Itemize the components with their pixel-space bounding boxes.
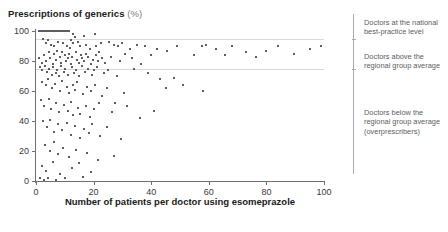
data-point xyxy=(61,80,63,82)
data-point xyxy=(83,60,85,62)
data-point xyxy=(85,53,87,55)
data-point xyxy=(69,47,71,49)
data-point xyxy=(73,72,75,74)
data-point xyxy=(90,90,92,92)
data-point xyxy=(43,179,45,181)
data-point xyxy=(277,45,279,47)
data-point xyxy=(74,125,76,127)
data-point xyxy=(101,95,103,97)
data-point xyxy=(53,53,55,55)
data-point xyxy=(93,69,95,71)
data-point xyxy=(74,89,76,91)
data-point xyxy=(46,71,48,73)
data-point xyxy=(54,83,56,85)
data-point xyxy=(62,147,64,149)
data-point xyxy=(111,111,113,113)
data-point xyxy=(83,35,85,37)
data-point xyxy=(136,44,138,46)
data-point xyxy=(57,41,59,43)
data-point xyxy=(320,45,322,47)
data-point xyxy=(71,56,73,58)
data-point xyxy=(41,62,43,64)
data-point xyxy=(48,68,50,70)
data-point xyxy=(43,54,45,56)
x-axis-line xyxy=(35,181,324,182)
data-point xyxy=(41,69,43,71)
data-point xyxy=(78,162,80,164)
data-point xyxy=(129,48,131,50)
annotation-below-average: Doctors below the regional group average… xyxy=(364,108,446,136)
data-point xyxy=(63,104,65,106)
data-point xyxy=(42,120,44,122)
data-point xyxy=(57,153,59,155)
data-point xyxy=(77,107,79,109)
data-point xyxy=(70,134,72,136)
data-point xyxy=(293,53,295,55)
data-point xyxy=(156,48,158,50)
data-point xyxy=(94,84,96,86)
reference-line xyxy=(36,39,324,40)
data-point xyxy=(309,48,311,50)
data-point xyxy=(107,69,109,71)
data-point xyxy=(43,105,45,107)
data-point xyxy=(49,57,51,59)
chart-title-main: Prescriptions of generics xyxy=(8,8,125,19)
data-point xyxy=(82,176,84,178)
data-point xyxy=(59,173,61,175)
x-tick xyxy=(36,181,37,185)
data-point xyxy=(121,42,123,44)
data-point xyxy=(55,72,57,74)
x-tick xyxy=(94,181,95,185)
data-point xyxy=(50,44,52,46)
data-point xyxy=(255,56,257,58)
data-point xyxy=(79,45,81,47)
data-point xyxy=(50,108,52,110)
data-point xyxy=(39,66,41,68)
data-point xyxy=(67,57,69,59)
data-point xyxy=(55,59,57,61)
data-point xyxy=(72,84,74,86)
y-tick xyxy=(32,31,36,32)
data-point xyxy=(53,45,55,47)
data-point xyxy=(40,99,42,101)
data-point xyxy=(97,60,99,62)
data-point xyxy=(52,66,54,68)
annotation-best-practice: Doctors at the national best-practice le… xyxy=(364,18,446,37)
data-point xyxy=(78,62,80,64)
data-point xyxy=(83,128,85,130)
data-point xyxy=(71,66,73,68)
data-point xyxy=(95,54,97,56)
data-point xyxy=(70,101,72,103)
x-tick xyxy=(266,181,267,185)
data-point xyxy=(45,60,47,62)
data-point xyxy=(104,62,106,64)
plot-area: 020406080100 020406080100 xyxy=(36,31,324,181)
data-point xyxy=(51,74,53,76)
data-point xyxy=(85,105,87,107)
data-point xyxy=(265,50,267,52)
data-point xyxy=(93,108,95,110)
data-point xyxy=(231,45,233,47)
data-point xyxy=(139,117,141,119)
y-tick xyxy=(32,91,36,92)
data-point xyxy=(91,123,93,125)
data-point xyxy=(79,137,81,139)
data-point xyxy=(81,65,83,67)
data-point xyxy=(66,122,68,124)
data-point xyxy=(45,170,47,172)
data-point xyxy=(56,50,58,52)
data-point xyxy=(68,30,70,32)
data-point xyxy=(166,50,168,52)
data-point xyxy=(75,149,77,151)
data-point xyxy=(114,102,116,104)
data-point xyxy=(80,54,82,56)
data-point xyxy=(72,114,74,116)
data-point xyxy=(116,75,118,77)
data-point xyxy=(68,156,70,158)
data-point xyxy=(119,60,121,62)
data-point xyxy=(66,86,68,88)
data-point xyxy=(90,171,92,173)
data-point xyxy=(245,51,247,53)
data-point xyxy=(42,38,44,40)
data-point xyxy=(48,51,50,53)
